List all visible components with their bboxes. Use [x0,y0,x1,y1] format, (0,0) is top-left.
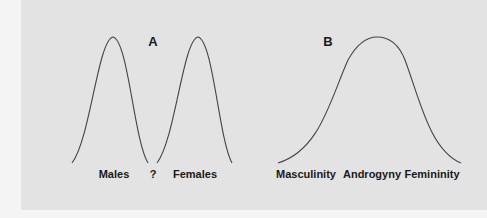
females-curve [157,37,232,163]
males-curve [72,37,148,163]
panel-b-title: B [323,34,332,49]
label-females: Females [173,168,217,180]
label-femininity: Femininity [404,168,459,180]
androgyny-curve [278,37,461,163]
label-androgyny: Androgyny [343,168,401,180]
label-question: ? [150,168,157,180]
label-males: Males [99,168,130,180]
label-masculinity: Masculinity [276,168,336,180]
panel-a-title: A [148,34,157,49]
curves-layer [0,0,487,218]
